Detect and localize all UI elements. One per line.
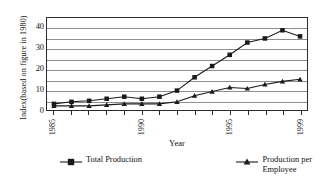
y-axis-tick-label: 20 xyxy=(26,65,44,73)
legend-label-production-per-employee: Production per Employee xyxy=(262,155,312,174)
legend-label-total-production: Total Production xyxy=(86,155,142,165)
legend-marker-triangle xyxy=(236,158,258,166)
data-point-square xyxy=(122,94,127,99)
y-axis-tick-labels: 010203040 xyxy=(24,17,44,111)
series-layer xyxy=(47,18,307,110)
data-point-square xyxy=(157,94,162,99)
data-point-square xyxy=(175,88,180,93)
x-axis-tick-label: 1985 xyxy=(49,114,57,140)
y-axis-tick-label: 0 xyxy=(26,107,44,115)
data-point-square xyxy=(210,64,215,69)
legend-item-production-per-employee: Production per Employee xyxy=(236,155,312,174)
y-axis-tick-label: 40 xyxy=(26,23,44,31)
x-axis-tick-label: 1999 xyxy=(297,114,305,140)
data-point-square xyxy=(140,97,145,102)
data-point-square xyxy=(87,99,92,104)
legend-marker-square xyxy=(60,158,82,166)
data-point-square xyxy=(280,28,285,33)
chart-figure: Index(based on figure in 1980) 010203040… xyxy=(0,0,328,185)
data-point-square xyxy=(227,53,232,58)
series-total-production xyxy=(52,28,303,106)
data-point-square xyxy=(104,97,109,102)
legend-item-total-production: Total Production xyxy=(60,155,142,166)
x-axis-tick-label: 1995 xyxy=(226,114,234,140)
chart-legend: Total Production Production per Employee xyxy=(46,155,318,181)
y-axis-tick-label: 10 xyxy=(26,86,44,94)
plot-area xyxy=(46,17,308,111)
y-axis-tick-label: 30 xyxy=(26,44,44,52)
x-axis-tick-labels: 1985199019951999 xyxy=(46,115,308,137)
data-point-square xyxy=(192,75,197,80)
data-point-square xyxy=(298,34,303,39)
x-axis-title: Year xyxy=(46,138,308,148)
x-axis-tick-label: 1990 xyxy=(137,114,145,140)
data-point-square xyxy=(245,40,250,45)
data-point-square xyxy=(263,36,268,41)
